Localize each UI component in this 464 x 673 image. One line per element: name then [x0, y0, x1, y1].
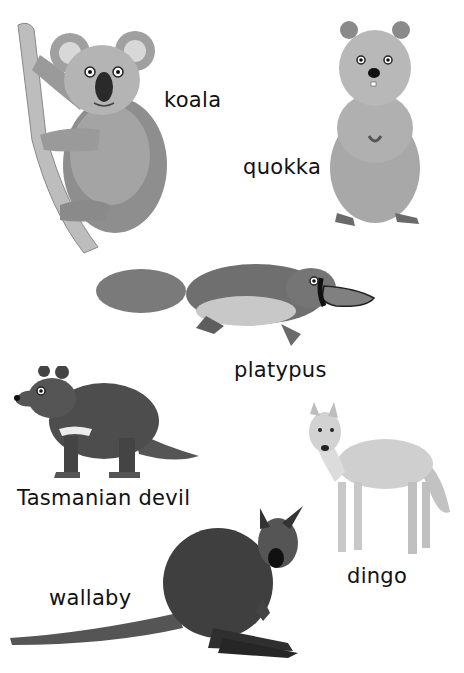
dingo-illustration	[300, 402, 458, 562]
platypus-label: platypus	[234, 358, 327, 382]
dingo-label: dingo	[347, 564, 407, 588]
wallaby-label: wallaby	[49, 586, 131, 610]
platypus-illustration	[96, 256, 381, 351]
quokka-label: quokka	[243, 155, 321, 179]
quokka-illustration	[325, 18, 425, 228]
koala-label: koala	[164, 88, 221, 112]
tasmanian-devil-illustration	[14, 366, 204, 481]
koala-illustration	[10, 15, 170, 255]
wallaby-illustration	[8, 503, 308, 663]
